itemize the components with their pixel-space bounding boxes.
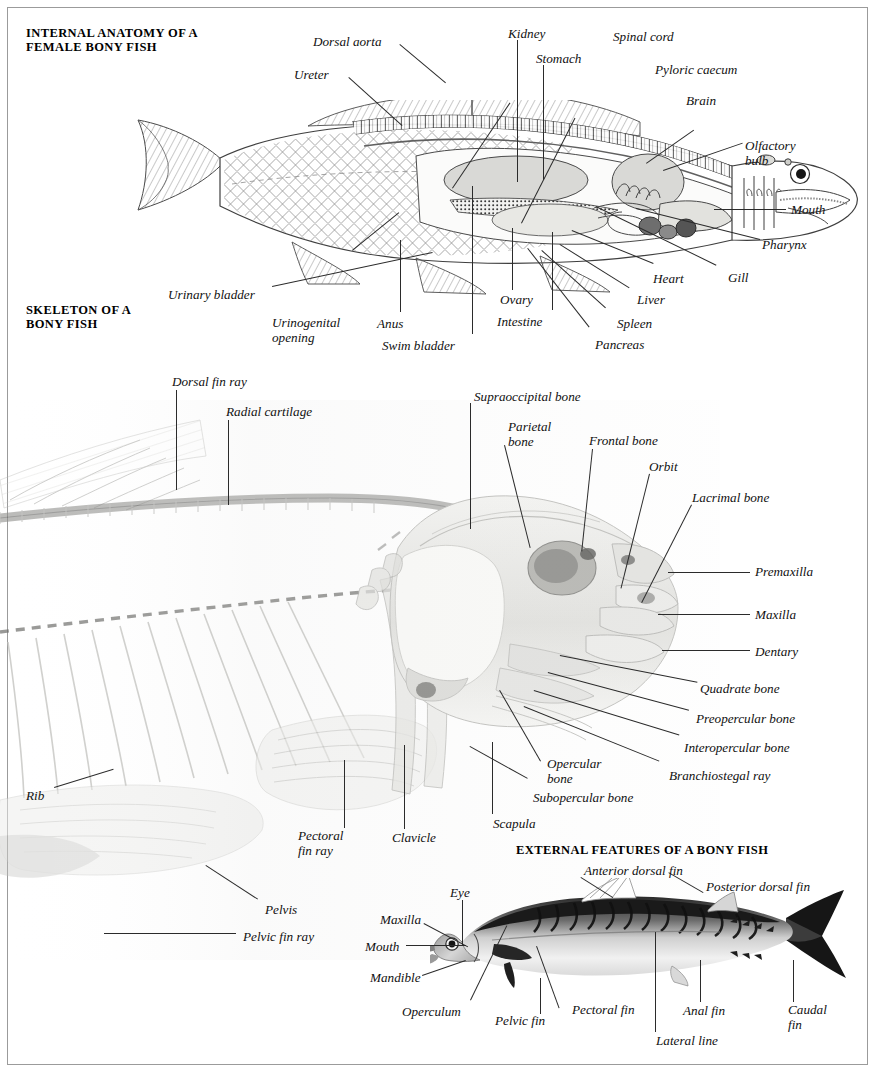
label-anterior-dorsal-fin: Anterior dorsal fin — [584, 864, 683, 879]
label-interopercular-bone: Interopercular bone — [684, 741, 790, 756]
label-pyloric-caecum: Pyloric caecum — [655, 63, 737, 78]
label-clavicle: Clavicle — [392, 831, 436, 846]
label-kidney: Kidney — [508, 27, 545, 42]
label-operculum: Operculum — [402, 1005, 461, 1020]
label-lateral-line: Lateral line — [656, 1034, 718, 1049]
section-title-internal-anatomy: INTERNAL ANATOMY OF A FEMALE BONY FISH — [26, 26, 198, 54]
label-gill: Gill — [728, 271, 749, 286]
label-swim-bladder: Swim bladder — [382, 339, 455, 354]
label-stomach: Stomach — [536, 52, 581, 67]
label-olfactory-bulb: Olfactory bulb — [745, 139, 796, 168]
label-premaxilla: Premaxilla — [755, 565, 813, 580]
section-title-skeleton: SKELETON OF A BONY FISH — [26, 303, 131, 331]
label-heart: Heart — [653, 272, 684, 287]
label-parietal-bone: Parietal bone — [508, 420, 551, 449]
label-mandible: Mandible — [370, 971, 421, 986]
label-pancreas: Pancreas — [595, 338, 644, 353]
anterior-dorsal-fin-art — [582, 878, 636, 902]
label-supraoccipital-bone: Supraoccipital bone — [474, 390, 581, 405]
label-opercular-bone: Opercular bone — [547, 757, 601, 786]
label-urinogenital-opening: Urinogenital opening — [272, 316, 340, 345]
posterior-dorsal-fin-art — [708, 892, 738, 912]
label-mouth: Mouth — [791, 203, 825, 218]
label-mouth: Mouth — [365, 940, 399, 955]
label-pharynx: Pharynx — [762, 238, 807, 253]
label-anus: Anus — [377, 317, 403, 332]
label-branchiostegal-ray: Branchiostegal ray — [669, 769, 770, 784]
label-ovary: Ovary — [500, 293, 533, 308]
label-pelvis: Pelvis — [265, 903, 297, 918]
anatomy-page: INTERNAL ANATOMY OF A FEMALE BONY FISH — [0, 0, 877, 1080]
label-brain: Brain — [686, 94, 716, 109]
label-lacrimal-bone: Lacrimal bone — [692, 491, 769, 506]
label-posterior-dorsal-fin: Posterior dorsal fin — [706, 880, 810, 895]
label-scapula: Scapula — [493, 817, 536, 832]
label-radial-cartilage: Radial cartilage — [226, 405, 312, 420]
label-liver: Liver — [637, 293, 665, 308]
ovary-art — [492, 204, 608, 236]
label-anal-fin: Anal fin — [683, 1004, 725, 1019]
label-preopercular-bone: Preopercular bone — [696, 712, 795, 727]
external-features-artwork — [430, 878, 855, 1008]
label-intestine: Intestine — [497, 315, 542, 330]
label-eye: Eye — [450, 886, 470, 901]
label-dorsal-fin-ray: Dorsal fin ray — [172, 375, 247, 390]
label-dentary: Dentary — [755, 645, 798, 660]
label-ureter: Ureter — [294, 68, 329, 83]
label-maxilla: Maxilla — [755, 608, 796, 623]
label-urinary-bladder: Urinary bladder — [168, 288, 255, 303]
label-rib: Rib — [26, 789, 44, 804]
section-title-external-features: EXTERNAL FEATURES OF A BONY FISH — [516, 843, 768, 857]
caudal-fin-art — [138, 120, 224, 210]
label-subopercular-bone: Subopercular bone — [533, 791, 633, 806]
label-orbit: Orbit — [649, 460, 678, 475]
label-pelvic-fin-ray: Pelvic fin ray — [243, 930, 314, 945]
label-spinal-cord: Spinal cord — [613, 30, 674, 45]
label-pelvic-fin: Pelvic fin — [495, 1014, 545, 1029]
label-pectoral-fin-ray: Pectoral fin ray — [298, 829, 343, 858]
label-caudal-fin: Caudal fin — [788, 1003, 827, 1032]
label-spleen: Spleen — [617, 317, 652, 332]
caudal-fin-photo-art — [786, 890, 846, 978]
pancreas-art — [659, 225, 677, 239]
label-pectoral-fin: Pectoral fin — [572, 1003, 635, 1018]
label-dorsal-aorta: Dorsal aorta — [313, 35, 382, 50]
swim-bladder-art — [444, 156, 588, 204]
label-maxilla: Maxilla — [380, 913, 421, 928]
label-frontal-bone: Frontal bone — [589, 434, 658, 449]
label-quadrate-bone: Quadrate bone — [700, 682, 779, 697]
